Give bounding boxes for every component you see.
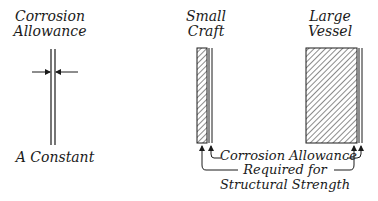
constant-plate bbox=[51, 49, 55, 145]
diagram-graphics bbox=[0, 0, 378, 201]
corrosion-leaders bbox=[211, 146, 361, 158]
large-vessel-plate bbox=[306, 48, 362, 143]
strength-leaders bbox=[202, 146, 354, 170]
small-craft-plate bbox=[197, 48, 212, 143]
